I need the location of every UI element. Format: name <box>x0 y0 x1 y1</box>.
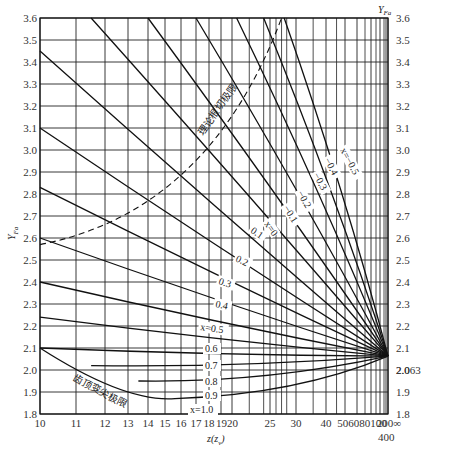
x-tick: 14 <box>143 417 155 429</box>
y-tick-right: 3.6 <box>396 12 410 24</box>
x-tick: 12 <box>100 417 111 429</box>
y-tick: 3.2 <box>23 100 37 112</box>
y-tick: 3.1 <box>23 122 37 134</box>
y-tick-right: 2.8 <box>396 188 410 200</box>
y-tick-right: 3.1 <box>396 122 410 134</box>
curve-label: 0.6 <box>205 343 218 354</box>
y-tick: 2.1 <box>23 342 37 354</box>
x-tick: 10 <box>35 417 47 429</box>
x-tick-400: 400 <box>378 431 395 443</box>
y-tick: 2.7 <box>23 210 37 222</box>
y-tick: 3.6 <box>23 12 37 24</box>
y-tick-right: 1.9 <box>396 386 410 398</box>
y-tick: 2.8 <box>23 188 37 200</box>
grid <box>40 18 388 414</box>
y-tick-right: 3.2 <box>396 100 410 112</box>
y-tick-right: 2.5 <box>396 254 410 266</box>
y-axis-label: YFa <box>6 226 20 240</box>
y-tick: 3.0 <box>23 144 37 156</box>
y-axis-label-right: YFa <box>378 4 392 17</box>
x-tick: 25 <box>265 417 277 429</box>
x-tick: 17 <box>191 417 203 429</box>
y-tick-right: 2.3 <box>396 298 410 310</box>
y-tick: 3.4 <box>23 56 37 68</box>
y-tick: 2.9 <box>23 166 37 178</box>
y-tick: 2.6 <box>23 232 37 244</box>
x-tick: 18 <box>204 417 216 429</box>
curve-x=-0.5 <box>284 18 388 356</box>
y-tick-right: 2.4 <box>396 276 410 288</box>
y-tick: 3.5 <box>23 34 37 46</box>
y-tick-right: 2.2 <box>396 320 410 332</box>
y-tick-right: 2.9 <box>396 166 410 178</box>
y-tick-right: 3.5 <box>396 34 410 46</box>
y-tick: 2.3 <box>23 298 37 310</box>
y-tick-right: 3.3 <box>396 78 410 90</box>
curve-0.9 <box>138 356 388 381</box>
y-tick-right: 2.7 <box>396 210 410 222</box>
x-tick: 11 <box>71 417 82 429</box>
yfa-chart: 1.81.81.91.92.02.02.12.12.22.22.32.32.42… <box>0 0 460 454</box>
y-tick-right: 3.4 <box>396 56 410 68</box>
x-tick: 16 <box>176 417 188 429</box>
curve-x=0 <box>91 18 388 356</box>
y-tick-2063: 2.063 <box>396 364 421 376</box>
y-tick: 2.4 <box>23 276 37 288</box>
x-tick: 1920 <box>216 417 239 429</box>
x-tick: 200∞ <box>377 417 402 429</box>
curve-label: 0.8 <box>205 376 218 387</box>
y-tick-right: 3.0 <box>396 144 410 156</box>
curve-label: x=1.0 <box>190 404 213 415</box>
y-tick: 2.2 <box>23 320 37 332</box>
curve-label: 0.9 <box>205 390 218 401</box>
y-tick: 1.9 <box>23 386 37 398</box>
y-tick-right: 2.6 <box>396 232 410 244</box>
y-tick-right: 2.1 <box>396 342 410 354</box>
y-tick: 2.5 <box>23 254 37 266</box>
curve--0.1 <box>148 18 388 356</box>
tip-limit-label: 齿顶变尖极限 <box>71 371 130 410</box>
x-tick: 15 <box>160 417 172 429</box>
curves <box>40 18 388 399</box>
x-axis-label: z(zv) <box>206 433 225 447</box>
x-tick: 40 <box>321 417 333 429</box>
x-tick: 30 <box>291 417 303 429</box>
y-tick: 3.3 <box>23 78 37 90</box>
curve-label: 0.4 <box>215 298 230 311</box>
y-tick: 2.0 <box>23 364 37 376</box>
curve-label: 0.7 <box>205 360 218 371</box>
x-tick: 13 <box>123 417 135 429</box>
curve-label: x=0.5 <box>200 321 224 335</box>
